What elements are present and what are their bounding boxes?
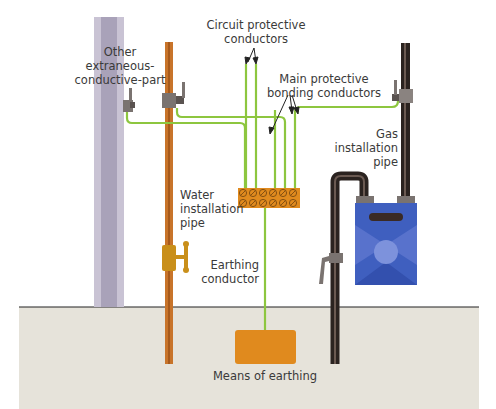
label-line: Circuit protective	[201, 18, 311, 32]
label-main-protective-bonding-conductors: Main protective bonding conductors	[264, 72, 384, 100]
label-line: Main protective	[264, 72, 384, 86]
means-of-earthing-electrode	[235, 330, 296, 364]
bonding-conductor-water	[177, 108, 285, 190]
label-line: conductor	[186, 272, 259, 286]
label-line: installation	[180, 202, 260, 216]
gas-meter	[355, 196, 417, 285]
label-earthing-conductor: Earthing conductor	[186, 258, 259, 286]
water-stopcock-icon	[162, 241, 189, 273]
label-gas-installation-pipe: Gas installation pipe	[330, 127, 398, 169]
clamp-column-icon	[123, 88, 135, 112]
label-circuit-protective-conductors: Circuit protective conductors	[201, 18, 311, 46]
label-other-extraneous-conductive-part: Other extraneous- conductive-part	[70, 45, 170, 87]
label-line: conductors	[201, 32, 311, 46]
label-line: pipe	[330, 155, 398, 169]
label-line: conductive-part	[70, 73, 170, 87]
bonding-conductor-column	[127, 110, 245, 190]
label-line: Gas	[330, 127, 398, 141]
water-installation-pipe	[165, 42, 173, 364]
gas-installation-pipe	[401, 43, 410, 200]
label-line: extraneous-	[70, 59, 170, 73]
label-line: pipe	[180, 216, 260, 230]
label-line: Water	[180, 188, 260, 202]
label-water-installation-pipe: Water installation pipe	[180, 188, 260, 230]
label-line: Other	[70, 45, 170, 59]
label-line: bonding conductors	[264, 86, 384, 100]
label-means-of-earthing: Means of earthing	[200, 369, 330, 383]
label-line: installation	[330, 141, 398, 155]
label-line: Earthing	[186, 258, 259, 272]
